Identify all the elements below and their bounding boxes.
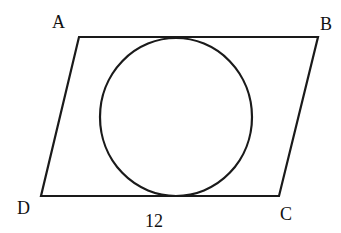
vertex-label-d: D xyxy=(17,198,30,218)
side-length-label: 12 xyxy=(145,211,163,231)
inscribed-circle xyxy=(100,38,252,196)
parallelogram-abcd xyxy=(41,37,318,196)
vertex-label-b: B xyxy=(320,14,332,34)
vertex-label-c: C xyxy=(280,204,292,224)
vertex-label-a: A xyxy=(52,12,65,32)
diagram-canvas: A B C D 12 xyxy=(0,0,341,233)
geometry-diagram: A B C D 12 xyxy=(0,0,341,233)
